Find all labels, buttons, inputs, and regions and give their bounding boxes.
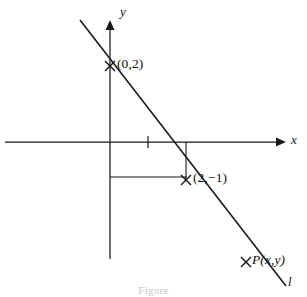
line-l-group <box>80 20 286 286</box>
figure-container: y x (0,2) (2,−1) P(x,y) l Figure <box>0 0 307 297</box>
line-l <box>80 20 286 286</box>
point-label-2-minus-1: (2,−1) <box>193 171 227 185</box>
point-label-p-text: P(x,y) <box>252 252 285 267</box>
y-axis-label: y <box>120 5 126 18</box>
y-axis-arrowhead <box>106 20 115 30</box>
x-axis-arrowhead <box>276 138 286 147</box>
x-marker-point-p <box>241 257 251 267</box>
point-label-p-x-y: P(x,y) <box>252 253 285 267</box>
point-label-0-2: (0,2) <box>117 57 143 71</box>
point-markers-group <box>105 61 251 267</box>
figure-caption: Figure <box>0 284 307 296</box>
x-axis-label: x <box>291 133 297 146</box>
axes-group <box>5 20 286 259</box>
